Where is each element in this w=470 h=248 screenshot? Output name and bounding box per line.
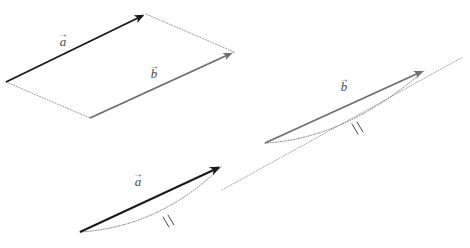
label-vector-a-right: → a xyxy=(133,171,143,188)
right-collinear-panel xyxy=(80,57,463,232)
label-vector-a-left: → a xyxy=(58,31,68,48)
tick-marks-arc-b xyxy=(352,122,363,134)
vector-diagram-figure: → a → b → a → b xyxy=(0,0,470,248)
construction-line-a-head-to-b-head xyxy=(146,14,234,52)
tick-marks-arc-a xyxy=(163,215,174,227)
vector-diagram-svg xyxy=(0,0,470,248)
construction-line-origin-to-bottom xyxy=(6,82,90,118)
vector-b-left xyxy=(90,54,231,119)
label-vector-b-right: → b xyxy=(339,76,349,93)
vector-a-right xyxy=(80,168,219,233)
vector-a-left xyxy=(6,16,143,83)
left-parallelogram-panel xyxy=(6,14,234,118)
label-vector-b-left: → b xyxy=(149,63,159,80)
